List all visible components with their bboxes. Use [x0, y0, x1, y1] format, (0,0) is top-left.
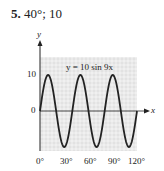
y-tick-10: 10: [27, 69, 36, 79]
x-tick-60: 60°: [84, 156, 97, 166]
equation-annotation: y = 10 sin 9x: [66, 62, 113, 72]
y-axis-label: y: [37, 29, 41, 39]
x-tick-90: 90°: [108, 156, 121, 166]
x-tick-120: 120°: [128, 156, 145, 166]
sine-plot: [0, 0, 164, 171]
x-tick-30: 30°: [60, 156, 73, 166]
y-tick-0: 0: [31, 105, 36, 115]
x-tick-0: 0°: [36, 156, 44, 166]
x-axis-label: x: [151, 105, 155, 115]
